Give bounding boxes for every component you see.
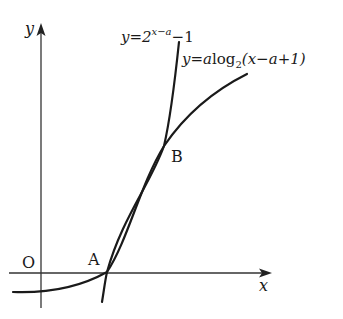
log-curve <box>13 74 247 292</box>
origin-label: O <box>22 255 35 271</box>
log-equation-lhs: y= <box>182 50 203 68</box>
log-equation-func: log <box>212 50 235 68</box>
exp-equation-exponent: x−a <box>152 26 172 37</box>
log-equation-coef: a <box>203 50 212 68</box>
log-equation-base: 2 <box>235 59 241 70</box>
log-equation-label: y=alog2(x−a+1) <box>182 52 306 67</box>
log-equation-arg: (x−a+1) <box>242 50 306 68</box>
exp-equation-label: y=2x−a−1 <box>121 30 194 45</box>
exp-equation-lhs: y=2 <box>121 28 152 46</box>
point-b-label: B <box>171 149 183 165</box>
x-axis <box>9 269 272 278</box>
point-a-label: A <box>88 252 100 268</box>
x-axis-label: x <box>259 278 268 294</box>
y-axis <box>37 23 46 308</box>
y-axis-label: y <box>25 21 34 37</box>
exp-equation-rhs: −1 <box>172 28 194 46</box>
